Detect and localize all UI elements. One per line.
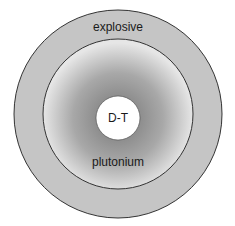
plutonium-label: plutonium	[92, 156, 144, 168]
core-label: D-T	[108, 112, 128, 124]
explosive-label: explosive	[93, 21, 143, 33]
